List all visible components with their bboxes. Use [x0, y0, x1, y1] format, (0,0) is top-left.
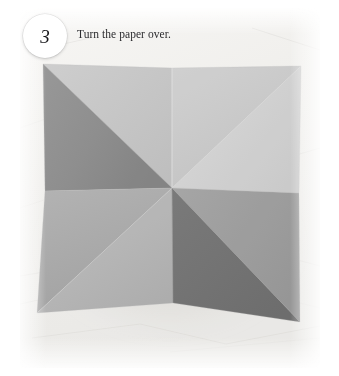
photo-grain-overlay: [20, 8, 320, 368]
origami-photo-illustration: [20, 8, 320, 368]
step-number-badge: 3: [23, 14, 67, 58]
step-number: 3: [40, 27, 50, 46]
step-photo: [20, 8, 320, 368]
instruction-page: 3 Turn the paper over.: [0, 0, 339, 376]
step-caption: Turn the paper over.: [77, 27, 307, 43]
